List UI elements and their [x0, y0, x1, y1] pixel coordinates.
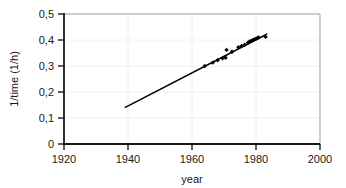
chart-svg: 0,5 0,4 0,3 0,2 0,1 0 1920 1940 1960 198… — [0, 0, 346, 188]
y-tick-label-0-1: 0,1 — [39, 112, 54, 124]
x-axis-title: year — [181, 173, 203, 185]
y-tick-label-0-3: 0,3 — [39, 60, 54, 72]
x-tick-label-1920: 1920 — [52, 153, 76, 165]
y-tick-label-0: 0 — [48, 138, 54, 150]
x-tick-label-2000: 2000 — [308, 153, 332, 165]
x-tick-label-1940: 1940 — [116, 153, 140, 165]
y-tick-label-0-2: 0,2 — [39, 86, 54, 98]
x-tick-label-1980: 1980 — [244, 153, 268, 165]
x-tick-label-1960: 1960 — [180, 153, 204, 165]
chart-container: 0,5 0,4 0,3 0,2 0,1 0 1920 1940 1960 198… — [0, 0, 346, 188]
y-tick-label-0-5: 0,5 — [39, 8, 54, 20]
y-axis-title: 1/time (1/h) — [8, 51, 20, 107]
y-tick-label-0-4: 0,4 — [39, 34, 54, 46]
